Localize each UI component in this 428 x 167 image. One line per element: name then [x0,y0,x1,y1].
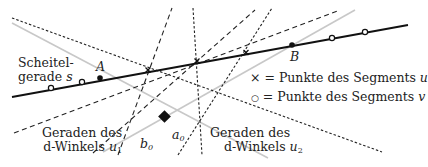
cross-icon: × [250,70,260,85]
point-a-label: A [96,60,105,74]
circle-icon: ○ [251,93,259,103]
point-b-dot [289,42,295,48]
legend-circle: ○ = Punkte des Segments v [251,90,425,105]
u2-label: Geraden des d-Winkels u2 [210,126,303,158]
a0-label: a0 [172,128,185,146]
scheitel-label: Scheitel- gerade s [18,56,74,84]
b0-label: b0 [140,137,153,155]
legend-cross: × = Punkte des Segments u [250,71,428,85]
point-a-dot [97,75,103,81]
u1-label: Geraden des d-Winkels u1 [22,126,122,158]
point-b-label: B [290,50,299,64]
vertex-diamond [158,110,171,123]
